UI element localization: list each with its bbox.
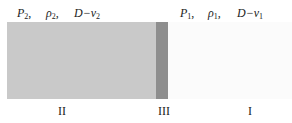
region-ii-label: II	[58, 104, 66, 118]
region-ii	[7, 22, 156, 99]
region-iii-front	[156, 22, 168, 99]
region-iii-label: III	[158, 104, 170, 118]
region-i	[168, 22, 292, 99]
region-i-label: I	[248, 104, 252, 118]
